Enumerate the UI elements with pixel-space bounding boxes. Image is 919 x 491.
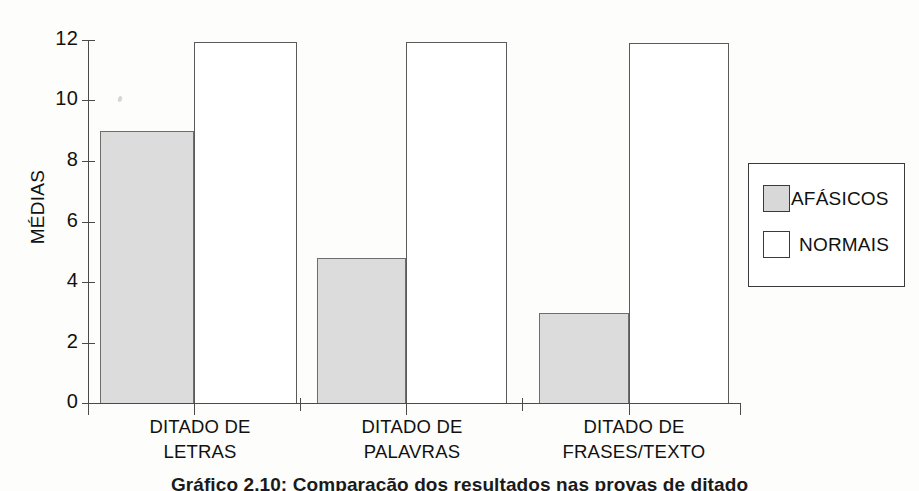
x-category-label-1: DITADO DE PALAVRAS xyxy=(312,414,512,464)
legend-label-afasicos: AFÁSICOS xyxy=(791,188,889,210)
y-tick-4 xyxy=(82,282,95,283)
bar-afasicos-ditado-de-palavras xyxy=(317,258,406,404)
x-category-label-0-line1: DITADO DE xyxy=(149,416,250,437)
y-tick-8 xyxy=(82,161,95,162)
bar-afasicos-ditado-de-letras xyxy=(100,131,194,404)
legend-label-normais: NORMAIS xyxy=(799,234,889,256)
bar-normais-ditado-de-palavras xyxy=(406,42,507,404)
y-tick-2 xyxy=(82,343,95,344)
bar-afasicos-ditado-de-frases-texto xyxy=(539,313,629,404)
y-tick-label-10: 10 xyxy=(36,87,78,110)
x-category-label-1-line1: DITADO DE xyxy=(361,416,462,437)
figure-caption: Gráfico 2.10: Comparação dos resultados … xyxy=(0,474,919,491)
legend-item-afasicos: AFÁSICOS xyxy=(763,185,889,212)
x-category-label-2-line2: FRASES/TEXTO xyxy=(534,439,734,464)
legend-swatch-afasicos-icon xyxy=(763,185,790,212)
x-category-label-0-line2: LETRAS xyxy=(100,439,300,464)
x-category-label-2-line1: DITADO DE xyxy=(583,416,684,437)
bar-normais-ditado-de-letras xyxy=(194,42,297,404)
y-tick-label-12: 12 xyxy=(36,27,78,50)
y-tick-12 xyxy=(82,40,95,41)
x-axis-tick-start xyxy=(88,403,89,415)
chart-legend: AFÁSICOS NORMAIS xyxy=(748,163,905,287)
x-category-label-0: DITADO DE LETRAS xyxy=(100,414,300,464)
x-axis-tick-end xyxy=(740,403,741,415)
y-tick-label-0: 0 xyxy=(36,390,78,413)
legend-swatch-normais-icon xyxy=(763,231,790,258)
chart-page: 12 10 8 6 4 2 0 MÉDIAS DITADO DE LE xyxy=(0,0,919,491)
y-tick-6 xyxy=(82,222,95,223)
bar-normais-ditado-de-frases-texto xyxy=(629,43,729,404)
x-axis-separator-1 xyxy=(300,398,301,411)
x-axis-line xyxy=(88,403,741,404)
legend-item-normais: NORMAIS xyxy=(763,231,889,258)
scan-artifact-speck xyxy=(117,95,123,102)
x-category-label-2: DITADO DE FRASES/TEXTO xyxy=(534,414,734,464)
x-axis-separator-2 xyxy=(522,398,523,411)
x-category-label-1-line2: PALAVRAS xyxy=(312,439,512,464)
y-axis-title: MÉDIAS xyxy=(27,127,49,287)
y-tick-10 xyxy=(82,100,95,101)
y-tick-label-2: 2 xyxy=(36,330,78,353)
